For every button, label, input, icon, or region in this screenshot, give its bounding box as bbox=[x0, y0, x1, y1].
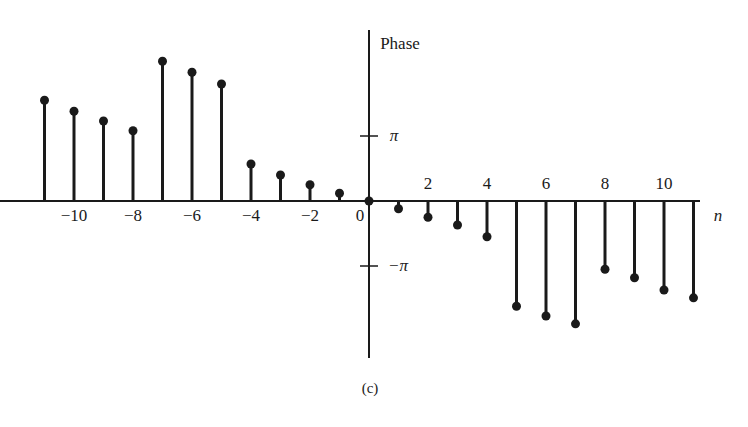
stem-marker bbox=[424, 213, 433, 222]
stem-marker bbox=[512, 302, 521, 311]
neg-pi-label: −π bbox=[388, 256, 408, 276]
stem-marker bbox=[689, 293, 698, 302]
x-tick-label: 0 bbox=[356, 206, 365, 226]
x-tick-label: 4 bbox=[483, 174, 492, 194]
stem-marker bbox=[247, 159, 256, 168]
stem-marker bbox=[158, 57, 167, 66]
x-tick-label: −6 bbox=[183, 206, 201, 226]
stem-marker bbox=[70, 107, 79, 116]
stem-marker bbox=[188, 68, 197, 77]
stem-marker bbox=[335, 189, 344, 198]
pi-label: π bbox=[390, 126, 399, 146]
x-tick-label: −2 bbox=[301, 206, 319, 226]
x-axis-title: n bbox=[714, 206, 723, 226]
stem-marker bbox=[129, 126, 138, 135]
x-tick-label: 8 bbox=[601, 174, 610, 194]
stem-marker bbox=[660, 286, 669, 295]
stem-marker bbox=[276, 171, 285, 180]
stem-marker bbox=[40, 96, 49, 105]
stem-marker bbox=[630, 273, 639, 282]
stem-marker bbox=[99, 117, 108, 126]
x-tick-label: −8 bbox=[124, 206, 142, 226]
stem-marker bbox=[217, 80, 226, 89]
stem-marker bbox=[394, 204, 403, 213]
stem-marker bbox=[453, 221, 462, 230]
stem-marker bbox=[571, 319, 580, 328]
x-tick-label: 10 bbox=[656, 174, 673, 194]
x-tick-label: 2 bbox=[424, 174, 433, 194]
stem-marker bbox=[365, 197, 374, 206]
x-tick-label: 6 bbox=[542, 174, 551, 194]
x-tick-label: −4 bbox=[242, 206, 260, 226]
stem-marker bbox=[306, 180, 315, 189]
y-axis-title: Phase bbox=[380, 34, 420, 54]
stem-marker bbox=[542, 312, 551, 321]
figure-caption: (c) bbox=[362, 380, 379, 397]
stem-plot bbox=[0, 0, 748, 427]
stem-marker bbox=[601, 265, 610, 274]
x-tick-label: −10 bbox=[61, 206, 88, 226]
stem-marker bbox=[483, 232, 492, 241]
